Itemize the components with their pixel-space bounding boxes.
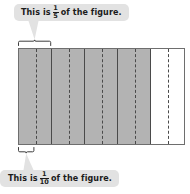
fraction-denominator: 5 [53, 13, 58, 19]
callout-bubble-one-fifth: This is 1 5 of the figure. [14, 4, 129, 21]
figure-part-3 [85, 49, 118, 144]
fraction-one-tenth: 1 10 [40, 171, 49, 185]
callout-top-suffix: of the figure. [61, 9, 122, 17]
callout-top-tail [29, 21, 39, 39]
fraction-numerator: 1 [53, 5, 58, 11]
minor-divider-4 [135, 49, 136, 144]
callout-bottom-suffix: of the figure. [51, 175, 112, 183]
minor-divider-1 [36, 49, 37, 144]
fraction-figure-illustration: This is 1 5 of the figure. This is 1 10 … [0, 0, 190, 194]
figure-part-1 [19, 49, 52, 144]
callout-bottom-tail [24, 154, 34, 170]
callout-bottom-prefix: This is [8, 175, 38, 183]
one-tenth-brace [19, 148, 34, 154]
figure-part-2 [52, 49, 85, 144]
minor-divider-5 [168, 49, 169, 144]
callout-bubble-one-tenth: This is 1 10 of the figure. [0, 170, 119, 187]
one-fifth-brace [19, 40, 51, 46]
minor-divider-2 [69, 49, 70, 144]
figure-part-4 [118, 49, 151, 144]
fraction-one-fifth: 1 5 [53, 5, 59, 19]
partitioned-rectangle [18, 48, 185, 145]
minor-divider-3 [102, 49, 103, 144]
callout-top-prefix: This is [21, 9, 51, 17]
fraction-numerator: 1 [42, 171, 47, 177]
fraction-denominator: 10 [40, 179, 49, 185]
figure-part-5 [151, 49, 184, 144]
